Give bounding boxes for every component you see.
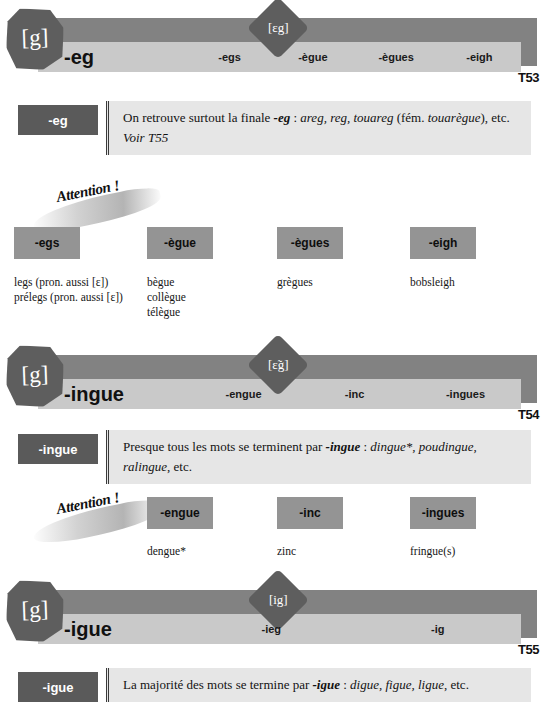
ending-chip: -ègue	[147, 227, 213, 259]
ending-chip: -egs	[14, 227, 80, 259]
attention-marker: Attention !	[30, 175, 180, 229]
variant-row: -ingue -engue -inc -ingues	[38, 379, 521, 409]
phoneme-badge-label: [ɛg]	[268, 20, 289, 36]
headword: -ingue	[38, 383, 188, 406]
variant-item: -eigh	[438, 51, 521, 63]
variant-item: -inc	[299, 388, 410, 400]
table-number: T55	[518, 642, 539, 657]
explanation-line: Voir T55	[123, 128, 521, 148]
word-item: grègues	[277, 275, 313, 290]
word-list: fringue(s)	[410, 544, 455, 559]
table-header-t54: [g] [ɛ̃g] -ingue -engue -inc -ingues T54	[0, 337, 543, 415]
word-list: bèguecollèguetélègue	[147, 275, 186, 320]
header-bar-step	[521, 42, 537, 66]
table-number: T53	[518, 70, 539, 85]
word-item: zinc	[277, 544, 296, 559]
ending-chip: -eigh	[410, 227, 476, 259]
variant-item: -ig	[355, 623, 522, 635]
explanation-line: Presque tous les mots se terminent par -…	[123, 437, 521, 477]
word-list: zinc	[277, 544, 296, 559]
word-item: prélegs (pron. aussi [ɛ])	[14, 290, 123, 305]
explanation-line: On retrouve surtout la finale -eg : areg…	[123, 108, 521, 128]
header-bar-step	[521, 379, 537, 403]
variant-item: -ègue	[271, 51, 354, 63]
word-list: bobsleigh	[410, 275, 455, 290]
explanation-tag: -ingue	[18, 434, 98, 464]
phoneme-badge-label: [ɛ̃g]	[268, 357, 289, 373]
word-list: dengue*	[147, 544, 186, 559]
ending-chip: -engue	[147, 497, 213, 529]
variant-row: -igue -ieg -ig	[38, 614, 521, 644]
word-item: collègue	[147, 290, 186, 305]
reference-page: [g] [ɛg] -eg -egs -ègue -ègues -eigh T53…	[0, 0, 543, 719]
explanation-body: La majorité des mots se termine par -igu…	[106, 668, 531, 702]
word-list: grègues	[277, 275, 313, 290]
explanation-tag: -igue	[18, 672, 98, 702]
word-item: dengue*	[147, 544, 186, 559]
variant-item: -ieg	[188, 623, 355, 635]
header-bar-step	[521, 614, 537, 638]
variant-item: -ègues	[355, 51, 438, 63]
table-header-t55: [g] [ig] -igue -ieg -ig T55	[0, 572, 543, 650]
variant-row: -eg -egs -ègue -ègues -eigh	[38, 42, 521, 72]
table-number: T54	[518, 407, 539, 422]
headword: -igue	[38, 618, 188, 641]
table-header-t53: [g] [ɛg] -eg -egs -ègue -ègues -eigh T53	[0, 0, 543, 78]
explanation-line: La majorité des mots se termine par -igu…	[123, 675, 521, 695]
word-list: legs (pron. aussi [ɛ])prélegs (pron. aus…	[14, 275, 123, 305]
word-item: fringue(s)	[410, 544, 455, 559]
variant-item: -egs	[188, 51, 271, 63]
ending-chip: -ingues	[410, 497, 476, 529]
explanation-tag: -eg	[18, 105, 98, 135]
word-item: bègue	[147, 275, 186, 290]
word-item: télègue	[147, 305, 186, 320]
word-item: bobsleigh	[410, 275, 455, 290]
ending-chip: -ègues	[277, 227, 343, 259]
explanation-body: On retrouve surtout la finale -eg : areg…	[106, 101, 531, 155]
explanation-body: Presque tous les mots se terminent par -…	[106, 430, 531, 484]
ending-chip: -inc	[277, 497, 343, 529]
variant-item: -engue	[188, 388, 299, 400]
word-item: legs (pron. aussi [ɛ])	[14, 275, 123, 290]
headword: -eg	[38, 46, 188, 69]
variant-item: -ingues	[410, 388, 521, 400]
phoneme-badge-label: [ig]	[269, 592, 288, 608]
